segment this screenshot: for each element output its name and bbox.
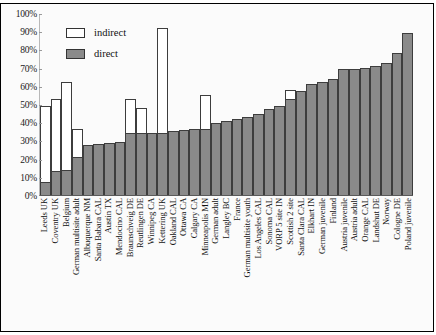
x-axis-tick-label: Landshut DE bbox=[371, 198, 380, 243]
bar-segment-direct bbox=[297, 92, 306, 195]
x-axis-label-slot: Norway bbox=[381, 198, 392, 326]
x-axis-label-slot: German juvenile bbox=[317, 198, 328, 326]
bar-stack-with-indirect bbox=[40, 106, 51, 195]
y-axis-tick-mark bbox=[39, 141, 42, 142]
bar-segment-direct bbox=[307, 85, 316, 195]
bar-stack-with-indirect bbox=[61, 82, 72, 195]
bar-stack-direct-only bbox=[338, 69, 349, 195]
bar-stack-direct-only bbox=[328, 79, 339, 195]
y-axis-tick-label: 30% bbox=[1, 137, 37, 146]
x-axis-label-slot: Finland bbox=[328, 198, 339, 326]
x-axis-tick-label: German multisite youth bbox=[243, 198, 252, 277]
bar-stack-with-indirect bbox=[51, 99, 62, 195]
y-axis: 100%90%80%70%60%50%40%30%20%10%0% bbox=[0, 14, 37, 196]
bar-chart: 100%90%80%70%60%50%40%30%20%10%0% Leeds … bbox=[0, 0, 436, 335]
bar-stack-direct-only bbox=[381, 63, 392, 195]
chart-legend: indirect direct bbox=[66, 24, 181, 66]
bar-column bbox=[381, 14, 392, 195]
y-axis-tick-label: 10% bbox=[1, 173, 37, 182]
y-axis-tick-label: 80% bbox=[1, 46, 37, 55]
x-axis-tick-label: Braunschveig DE bbox=[126, 198, 135, 257]
x-axis-label-slot: Albuquerque NM bbox=[82, 198, 93, 326]
bar-segment-direct bbox=[350, 70, 359, 195]
x-axis-tick-label: Calgary CA bbox=[190, 198, 199, 238]
bar-stack-with-indirect bbox=[136, 108, 147, 195]
bar-segment-direct bbox=[233, 120, 242, 195]
x-axis-tick-label: Austria adult bbox=[350, 198, 359, 241]
y-axis-tick-label: 70% bbox=[1, 64, 37, 73]
x-axis-label-slot: Calgary CA bbox=[189, 198, 200, 326]
x-axis-tick-label: Scottish 2 site bbox=[286, 198, 295, 245]
bar-stack-direct-only bbox=[83, 145, 94, 195]
bar-stack-direct-only bbox=[274, 106, 285, 195]
x-axis-tick-label: Leeds UK bbox=[40, 198, 49, 232]
x-axis-tick-label: Sonoma CAL bbox=[264, 198, 273, 245]
bar-segment-direct bbox=[393, 54, 402, 195]
bar-column bbox=[328, 14, 339, 195]
bar-stack-direct-only bbox=[349, 69, 360, 195]
bar-stack-direct-only bbox=[402, 33, 413, 195]
bar-column bbox=[200, 14, 211, 195]
bar-stack-direct-only bbox=[189, 129, 200, 195]
bar-segment-direct bbox=[52, 171, 61, 195]
x-axis-label-slot: German adult bbox=[210, 198, 221, 326]
bar-segment-direct bbox=[158, 133, 167, 195]
x-axis-label-slot: Poland juvenile bbox=[402, 198, 413, 326]
x-axis-label-slot: Austria adult bbox=[349, 198, 360, 326]
bar-stack-direct-only bbox=[93, 144, 104, 195]
bar-stack-direct-only bbox=[179, 130, 190, 195]
bar-stack-with-indirect bbox=[72, 129, 83, 195]
bar-segment-direct bbox=[265, 110, 274, 195]
x-axis-tick-label: Orange CAL bbox=[361, 198, 370, 242]
bar-segment-direct bbox=[137, 133, 146, 195]
y-axis-tick-mark bbox=[39, 160, 42, 161]
bar-stack-direct-only bbox=[104, 143, 115, 195]
x-axis-tick-label: Oakland CAL bbox=[168, 198, 177, 245]
x-axis-label-slot: Mendocino CAL bbox=[114, 198, 125, 326]
y-axis-tick-mark bbox=[39, 69, 42, 70]
bar-column bbox=[242, 14, 253, 195]
bar-segment-direct bbox=[116, 143, 125, 195]
y-axis-tick-label: 90% bbox=[1, 28, 37, 37]
x-axis-tick-label: Ottawa CA bbox=[179, 198, 188, 236]
x-axis-tick-label: German juvenile bbox=[318, 198, 327, 254]
x-axis-label-slot: Santa Babara CAL bbox=[92, 198, 103, 326]
x-axis-tick-label: VORP 5 site IN bbox=[275, 198, 284, 251]
bar-stack-direct-only bbox=[264, 109, 275, 195]
bar-column bbox=[360, 14, 371, 195]
y-axis-tick-label: 100% bbox=[1, 10, 37, 19]
bar-segment-direct bbox=[403, 34, 412, 195]
y-axis-tick-label: 0% bbox=[1, 192, 37, 201]
bar-segment-direct bbox=[329, 80, 338, 195]
bar-stack-direct-only bbox=[296, 91, 307, 195]
bar-segment-direct bbox=[180, 131, 189, 195]
bar-column bbox=[221, 14, 232, 195]
x-axis-label-slot: Sonoma CAL bbox=[263, 198, 274, 326]
x-axis-tick-label: Santa Babara CAL bbox=[93, 198, 102, 261]
bar-stack-direct-only bbox=[317, 82, 328, 195]
legend-label-direct: direct bbox=[94, 48, 118, 59]
x-axis-tick-label: France bbox=[232, 198, 241, 221]
x-axis-label-slot: German multisite youth bbox=[242, 198, 253, 326]
bar-segment-direct bbox=[169, 132, 178, 195]
bar-segment-direct bbox=[371, 67, 380, 195]
bar-column bbox=[211, 14, 222, 195]
bar-segment-direct bbox=[41, 182, 50, 195]
bar-column bbox=[264, 14, 275, 195]
x-axis-label-slot: Santa Clara CAL bbox=[295, 198, 306, 326]
x-axis-tick-label: Reutlingen DE bbox=[136, 198, 145, 248]
y-axis-tick-mark bbox=[39, 32, 42, 33]
x-axis-label-slot: Austria juvenile bbox=[338, 198, 349, 326]
bar-segment-direct bbox=[318, 83, 327, 195]
bar-segment-direct bbox=[105, 144, 114, 195]
x-axis-tick-label: Austin TX bbox=[104, 198, 113, 233]
y-axis-tick-label: 40% bbox=[1, 119, 37, 128]
bar-stack-direct-only bbox=[168, 131, 179, 195]
bar-stack-direct-only bbox=[211, 123, 222, 195]
x-axis-tick-label: Norway bbox=[382, 198, 391, 225]
bar-stack-direct-only bbox=[147, 133, 158, 195]
y-axis-tick-mark bbox=[39, 105, 42, 106]
bar-stack-with-indirect bbox=[200, 95, 211, 195]
x-axis-tick-label: Albuquerque NM bbox=[83, 198, 92, 257]
x-axis-tick-label: Austria juvenile bbox=[339, 198, 348, 252]
